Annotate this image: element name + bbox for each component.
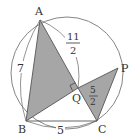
label-A: A	[34, 5, 44, 18]
label-Q: Q	[72, 92, 81, 105]
length-QC-denominator: 2	[90, 97, 96, 107]
length-AB: 7	[17, 62, 24, 75]
length-BC: 5	[57, 124, 64, 137]
label-P: P	[121, 62, 129, 75]
label-C: C	[98, 123, 106, 136]
label-B: B	[18, 123, 26, 136]
length-QC-numerator: 5	[90, 85, 96, 95]
length-AQ-numerator: 11	[67, 31, 80, 42]
triangle-QPC	[78, 68, 118, 121]
length-AQ-denominator: 2	[70, 45, 76, 56]
geometry-diagram: A B C P Q 7 5 11 2 5 2	[0, 0, 133, 137]
